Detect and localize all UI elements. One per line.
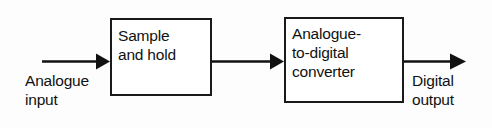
block-diagram-canvas: Sample and hold Analogue- to-digital con… [0, 0, 492, 128]
digital-output-label: Digital output [412, 71, 490, 109]
block-analogue-to-digital-converter-label: Analogue- to-digital converter [292, 24, 408, 81]
sample-to-adc-wire [210, 50, 288, 74]
block-sample-and-hold-label: Sample and hold [118, 26, 214, 64]
analogue-input-label: Analogue input [25, 71, 110, 109]
